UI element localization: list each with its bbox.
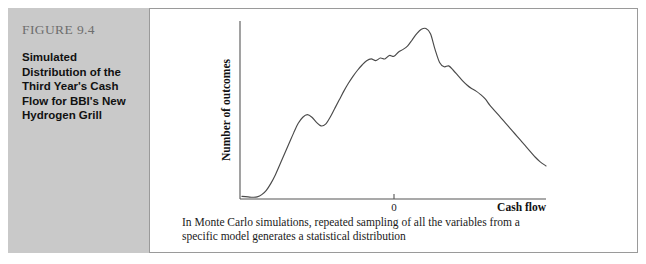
figure-number-label: FIGURE 9.4 <box>22 22 149 38</box>
figure-title: Simulated Distribution of the Third Year… <box>22 50 140 123</box>
y-axis-title: Number of outcomes <box>220 58 232 161</box>
figure-title-line: Third Year's Cash <box>22 79 140 94</box>
figure-caption-panel: FIGURE 9.4 Simulated Distribution of the… <box>8 8 149 253</box>
chart-svg: 0 Cash flow Number of outcomes <box>150 9 637 214</box>
distribution-chart: 0 Cash flow Number of outcomes <box>150 9 637 214</box>
distribution-curve <box>242 28 546 197</box>
figure-content-box: 0 Cash flow Number of outcomes In Monte … <box>149 8 638 253</box>
x-axis-tick-label-zero: 0 <box>391 201 397 213</box>
x-axis-title: Cash flow <box>497 201 547 213</box>
chart-caption-line: specific model generates a statistical d… <box>182 229 602 243</box>
chart-caption-line: In Monte Carlo simulations, repeated sam… <box>182 215 602 229</box>
figure-title-line: Distribution of the <box>22 65 140 80</box>
figure-title-line: Simulated <box>22 50 140 65</box>
figure-title-line: Hydrogen Grill <box>22 108 140 123</box>
figure-container: FIGURE 9.4 Simulated Distribution of the… <box>0 0 646 264</box>
chart-caption: In Monte Carlo simulations, repeated sam… <box>182 215 602 243</box>
figure-title-line: Flow for BBI's New <box>22 94 140 109</box>
